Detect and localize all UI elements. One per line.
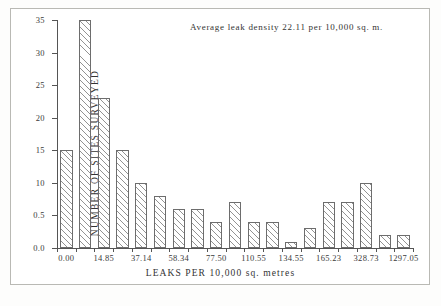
x-tick-label: 14.85	[94, 253, 115, 263]
y-tick-mark: 20	[52, 118, 57, 119]
x-tick-mark	[226, 248, 227, 252]
histogram-bar	[116, 150, 128, 248]
histogram-bar	[173, 209, 185, 248]
histogram-bar	[60, 150, 72, 248]
x-tick-label: 165.23	[316, 253, 341, 263]
x-tick-mark	[132, 248, 133, 252]
x-tick-mark	[338, 248, 339, 252]
x-tick-mark	[188, 248, 189, 252]
x-tick-mark	[151, 248, 152, 252]
x-tick-mark	[263, 248, 264, 252]
histogram-bar	[285, 242, 297, 249]
x-axis-title: LEAKS PER 10,000 sq. metres	[0, 268, 441, 278]
y-tick-label: 0.5	[33, 210, 45, 220]
histogram-bar	[135, 183, 147, 248]
histogram-bar	[379, 235, 391, 248]
x-tick-mark	[76, 248, 77, 252]
x-tick-mark	[244, 248, 245, 252]
y-tick-label: 35	[36, 15, 45, 25]
y-tick-label: 25	[36, 80, 45, 90]
y-tick-mark: 10	[52, 183, 57, 184]
x-tick-mark	[376, 248, 377, 252]
x-tick-label: 134.55	[279, 253, 304, 263]
histogram-bar	[210, 222, 222, 248]
histogram-bar	[266, 222, 278, 248]
y-tick-mark: 25	[52, 85, 57, 86]
x-tick-mark	[207, 248, 208, 252]
x-tick-mark	[301, 248, 302, 252]
x-tick-label: 37.14	[131, 253, 152, 263]
plot-area: 0.00.5101520253035 0.0014.8537.1458.3477…	[57, 20, 413, 248]
y-tick-label: 10	[36, 178, 45, 188]
x-tick-mark	[394, 248, 395, 252]
y-tick-label: 15	[36, 145, 45, 155]
y-axis-line	[57, 20, 58, 248]
x-axis-line	[57, 248, 413, 249]
x-tick-mark	[113, 248, 114, 252]
histogram-bar	[79, 20, 91, 248]
histogram-bar	[248, 222, 260, 248]
x-tick-mark	[282, 248, 283, 252]
y-tick-label: 0.0	[33, 243, 45, 253]
x-tick-label: 58.34	[168, 253, 189, 263]
histogram-bar	[304, 228, 316, 248]
histogram-bar	[154, 196, 166, 248]
histogram-bar	[360, 183, 372, 248]
y-tick-label: 20	[36, 113, 45, 123]
y-tick-mark: 35	[52, 20, 57, 21]
x-tick-mark	[94, 248, 95, 252]
y-tick-mark: 0.5	[52, 215, 57, 216]
x-tick-mark	[357, 248, 358, 252]
histogram-bar	[341, 202, 353, 248]
y-tick-mark: 15	[52, 150, 57, 151]
x-tick-mark	[169, 248, 170, 252]
histogram-bar	[323, 202, 335, 248]
x-tick-label: 0.00	[58, 253, 74, 263]
y-tick-mark: 30	[52, 53, 57, 54]
histogram-bar	[229, 202, 241, 248]
x-tick-mark	[413, 248, 414, 252]
x-tick-mark	[319, 248, 320, 252]
x-tick-mark	[57, 248, 58, 252]
x-tick-label: 328.73	[354, 253, 379, 263]
x-tick-label: 1297.05	[389, 253, 419, 263]
x-tick-label: 110.55	[241, 253, 266, 263]
figure-container: NUMBER OF SITES SURVEYED Average leak de…	[0, 0, 441, 306]
histogram-bar	[191, 209, 203, 248]
histogram-bar	[397, 235, 409, 248]
y-tick-label: 30	[36, 48, 45, 58]
x-tick-label: 77.50	[206, 253, 227, 263]
histogram-bar	[98, 98, 110, 248]
